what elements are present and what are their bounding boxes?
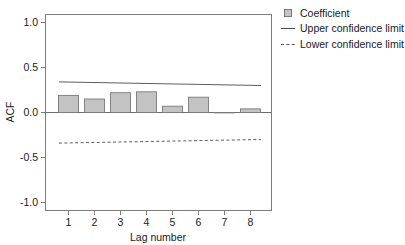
y-tick-label: -0.5 — [20, 151, 38, 163]
x-tick-label: 6 — [196, 216, 202, 228]
y-tick-label: 0.0 — [23, 106, 38, 118]
bar-lag-2 — [85, 99, 105, 113]
legend-label-lower-confidence-limit: Lower confidence limit — [300, 38, 404, 50]
square-swatch-icon — [285, 10, 292, 17]
x-tick-label: 5 — [170, 216, 176, 228]
y-tick-label: 0.5 — [23, 61, 38, 73]
y-tick-label: -1.0 — [20, 196, 38, 208]
bar-lag-3 — [111, 93, 131, 113]
x-tick-labels: 1 2 3 4 5 6 7 8 — [66, 216, 254, 228]
legend-label-coefficient: Coefficient — [300, 7, 350, 19]
y-axis-ticks — [41, 23, 46, 203]
x-tick-label: 4 — [144, 216, 150, 228]
legend-label-upper-confidence-limit: Upper confidence limit — [300, 22, 404, 34]
bar-lag-4 — [137, 92, 157, 113]
upper-confidence-limit-line — [59, 82, 261, 86]
y-axis-title: ACF — [4, 102, 16, 123]
bar-series — [59, 92, 261, 113]
y-tick-label: 1.0 — [23, 16, 38, 28]
x-tick-label: 7 — [222, 216, 228, 228]
acf-chart: 1.0 0.5 0.0 -0.5 -1.0 ACF — [0, 0, 405, 245]
x-axis-ticks — [69, 211, 251, 216]
bar-lag-5 — [163, 106, 183, 112]
y-tick-labels: 1.0 0.5 0.0 -0.5 -1.0 — [20, 16, 38, 208]
x-tick-label: 8 — [248, 216, 254, 228]
bar-lag-1 — [59, 95, 79, 112]
lower-confidence-limit-line — [59, 140, 261, 144]
bar-lag-6 — [189, 97, 209, 112]
chart-legend: Coefficient Upper confidence limit Lower… — [281, 7, 404, 51]
x-tick-label: 2 — [92, 216, 98, 228]
x-tick-label: 3 — [118, 216, 124, 228]
bar-lag-8 — [241, 109, 261, 113]
chart-canvas: 1.0 0.5 0.0 -0.5 -1.0 ACF — [0, 0, 405, 245]
x-tick-label: 1 — [66, 216, 72, 228]
x-axis-title: Lag number — [130, 231, 187, 243]
